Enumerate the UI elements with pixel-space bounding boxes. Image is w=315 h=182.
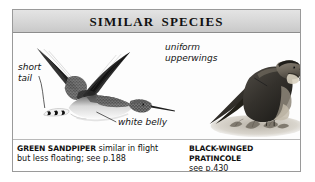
illustration-plate: short tail white belly uniform upperwing… [13,34,300,139]
caption-right-line2: see p.430 [189,164,299,172]
species-name-black-winged-pratincole: BLACK-WINGED PRATINCOLE [189,144,253,163]
page-title: SIMILAR SPECIES [13,14,300,30]
caption-left-line1-rest: similar in flight [96,144,158,153]
green-sandpiper-illustration [37,48,175,122]
annotation-white-belly: white belly [118,117,167,128]
caption-left-line2: but less floating; see p.188 [17,154,185,164]
caption-line-1: GREEN SANDPIPER similar in flight [17,144,185,154]
annotation-uniform-upperwings: uniform upperwings [165,42,217,63]
black-winged-pratincole-illustration [210,60,300,137]
species-name-green-sandpiper: GREEN SANDPIPER [17,144,96,153]
caption-area: GREEN SANDPIPER similar in flight but le… [13,139,300,172]
green-sandpiper-tail [44,109,69,117]
caption-right-line-1: BLACK-WINGED PRATINCOLE [189,144,299,164]
similar-species-panel: SIMILAR SPECIES [12,9,301,172]
caption-green-sandpiper: GREEN SANDPIPER similar in flight but le… [17,144,185,164]
panel-header: SIMILAR SPECIES [13,10,300,33]
field-guide-similar-species-figure: SIMILAR SPECIES [0,0,315,182]
annotation-short-tail: short tail [18,62,41,83]
caption-black-winged-pratincole: BLACK-WINGED PRATINCOLE see p.430 [189,144,299,172]
